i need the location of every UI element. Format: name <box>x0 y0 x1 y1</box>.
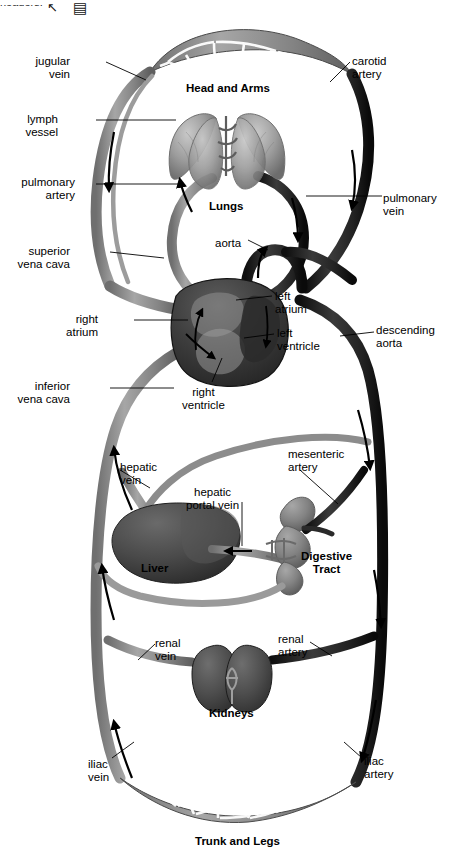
right-atrium-label: right atrium <box>66 313 98 339</box>
iliac-vein-label: iliac vein <box>88 758 109 784</box>
head-and-arms-capillary-bed <box>150 30 352 74</box>
circulatory-diagram-canvas <box>0 0 454 862</box>
left-ventricle-label: left ventricle <box>277 327 320 353</box>
hepatic-portal-vein-label: hepatic portal vein <box>186 486 239 512</box>
toolbar-strip: headers: ↖ ▤ <box>0 0 454 20</box>
digestive-tract-organ <box>266 470 364 595</box>
leader-aorta <box>248 240 268 250</box>
digestive-tract-label: Digestive Tract <box>301 550 352 576</box>
mesenteric-artery-label: mesenteric artery <box>288 448 344 474</box>
superior-vena-cava-label: superior vena cava <box>18 245 70 271</box>
aorta-label: aorta <box>215 237 241 250</box>
cursor-arrow-icon[interactable]: ↖ <box>47 1 58 14</box>
carotid-artery-label: carotid artery <box>352 55 387 81</box>
book-icon[interactable]: ▤ <box>73 1 87 14</box>
renal-vein-label: renal vein <box>155 637 181 663</box>
trunk-and-legs-label: Trunk and Legs <box>195 835 280 848</box>
flow-arrow-carotid <box>352 150 355 208</box>
vessel-network <box>96 30 383 823</box>
circulatory-system-diagram-page: headers: ↖ ▤ <box>0 0 454 862</box>
renal-artery-label: renal artery <box>278 633 307 659</box>
cropped-header-text: headers: <box>0 0 43 8</box>
leader-iliac-artery <box>344 742 362 758</box>
inferior-vena-cava-label: inferior vena cava <box>18 380 70 406</box>
kidneys-organ <box>192 645 272 712</box>
leader-jugular-vein <box>106 62 146 80</box>
heart-organ <box>171 279 288 387</box>
iliac-artery-label: iliac artery <box>364 755 393 781</box>
pulmonary-vein-label: pulmonary vein <box>383 192 437 218</box>
right-ventricle-label: right ventricle <box>182 386 225 412</box>
kidneys-label: Kidneys <box>209 707 254 720</box>
descending-aorta-label: descending aorta <box>376 324 435 350</box>
flow-arrow-ivc-mid <box>102 566 114 620</box>
hepatic-vein-label: hepatic vein <box>120 461 157 487</box>
mesenteric-artery-vessel <box>306 470 364 530</box>
lungs-label: Lungs <box>209 200 244 213</box>
trunk-and-legs-capillary-bed <box>120 778 356 823</box>
liver-label: Liver <box>141 562 169 575</box>
head-and-arms-label: Head and Arms <box>186 82 270 95</box>
liver-organ <box>112 503 240 583</box>
superior-vena-cava-vessel <box>110 286 180 310</box>
pulmonary-artery-label: pulmonary artery <box>21 176 75 202</box>
left-atrium-label: left atrium <box>275 290 307 316</box>
lymph-vessel-label: lymph vessel <box>25 113 58 139</box>
descending-aorta-vessel <box>300 300 383 782</box>
jugular-vein-label: jugular vein <box>35 55 70 81</box>
